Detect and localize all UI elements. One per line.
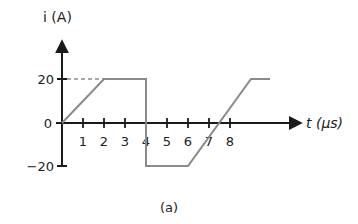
svg-text:2: 2 xyxy=(100,134,108,149)
x-tick-labels: 1 2 3 4 5 6 7 8 xyxy=(79,134,234,149)
figure-caption: (a) xyxy=(160,200,178,215)
y-axis-label: i (A) xyxy=(43,9,72,25)
y-tick-label-20: 20 xyxy=(37,72,54,87)
x-axis-label: t (μs) xyxy=(306,115,343,131)
svg-text:1: 1 xyxy=(79,134,87,149)
svg-text:3: 3 xyxy=(121,134,129,149)
svg-text:6: 6 xyxy=(184,134,192,149)
y-tick-label-neg20: −20 xyxy=(27,159,54,174)
current-waveform-figure: i (A) 20 0 −20 1 2 3 4 5 6 7 8 xyxy=(0,0,358,224)
svg-text:8: 8 xyxy=(226,134,234,149)
svg-text:5: 5 xyxy=(163,134,171,149)
y-tick-label-0: 0 xyxy=(44,116,52,131)
